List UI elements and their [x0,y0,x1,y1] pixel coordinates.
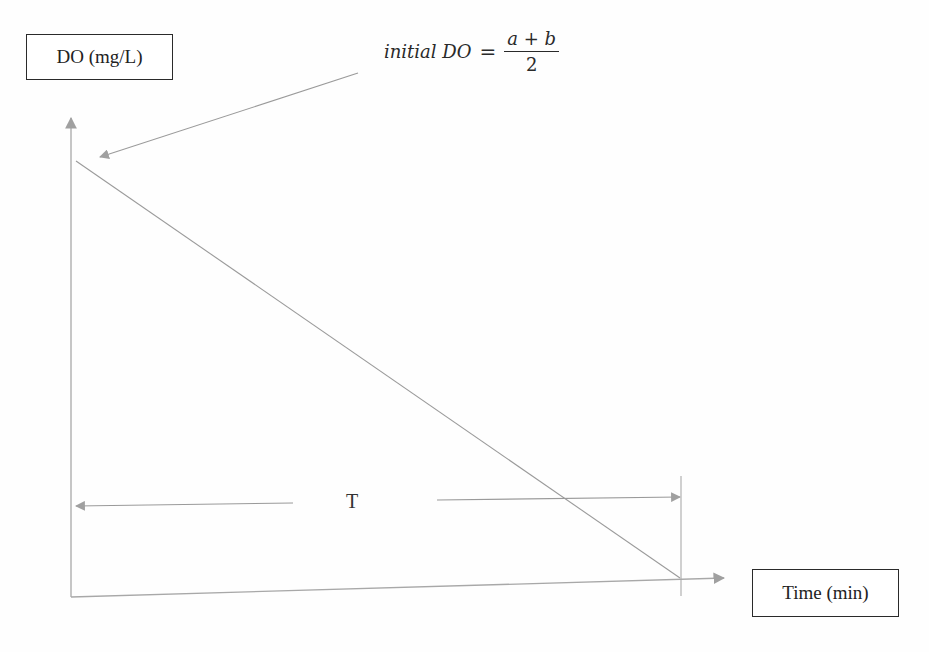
t-right-arrow [437,497,680,500]
formula-lhs: initial DO [384,41,472,62]
diagram-lines [0,0,929,652]
y-axis-label: DO (mg/L) [26,34,173,80]
formula-denominator: 2 [526,52,537,75]
x-axis [71,578,724,597]
do-decline-diagram: DO (mg/L) Time (min) T initial DO = a + … [0,0,929,652]
do-decline-line [76,161,680,578]
t-left-arrow [76,503,293,506]
initial-do-formula: initial DO = a + b 2 [384,28,559,75]
x-axis-label: Time (min) [752,569,899,617]
initial-do-pointer-arrow [100,73,358,157]
formula-equals: = [480,40,497,64]
formula-numerator: a + b [504,28,559,52]
duration-label: T [346,490,358,513]
formula-fraction: a + b 2 [504,28,559,75]
